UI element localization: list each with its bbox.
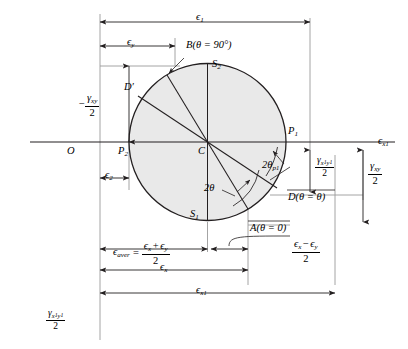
label-point-D: D(θ = θ) <box>288 192 325 203</box>
label-point-A: A(θ = 0) <box>250 223 286 234</box>
mohrs-circle-figure: ϵ1 ϵy B(θ = 90°) S2 D′ −γxy2 O P2 C P1 ϵ… <box>0 0 408 349</box>
label-axis-epsilon-x1: ϵx1 <box>378 136 389 148</box>
label-epsilon1: ϵ1 <box>196 12 204 24</box>
label-epsilonx: ϵx <box>160 262 167 274</box>
label-point-P1: P1 <box>288 126 298 138</box>
label-vertical-axis: γx1y12 <box>46 308 65 331</box>
label-point-S1: S1 <box>190 209 199 221</box>
label-point-Dprime: D′ <box>124 82 134 93</box>
label-origin: O <box>67 146 75 157</box>
label-center-C: C <box>198 146 205 157</box>
label-angle-2theta-p1: 2θp1 <box>262 160 279 172</box>
label-angle-2theta: 2θ <box>204 183 214 194</box>
label-gamma-xy-half: γxy2 <box>368 160 382 186</box>
label-point-S2: S2 <box>212 59 221 71</box>
label-epsilony: ϵy <box>127 37 134 49</box>
label-gamma-x1y1-half: γx1y12 <box>315 155 334 178</box>
leader-half-difference <box>229 236 290 246</box>
label-half-difference: ϵx−ϵy2 <box>292 238 320 264</box>
label-epsilon2: ϵ2 <box>105 170 113 182</box>
label-epsilonx1-dim: ϵx1 <box>196 285 207 297</box>
label-point-B: B(θ = 90°) <box>186 40 232 51</box>
label-point-P2: P2 <box>118 146 128 158</box>
label-neg-gamma-xy-half: −γxy2 <box>79 92 99 118</box>
